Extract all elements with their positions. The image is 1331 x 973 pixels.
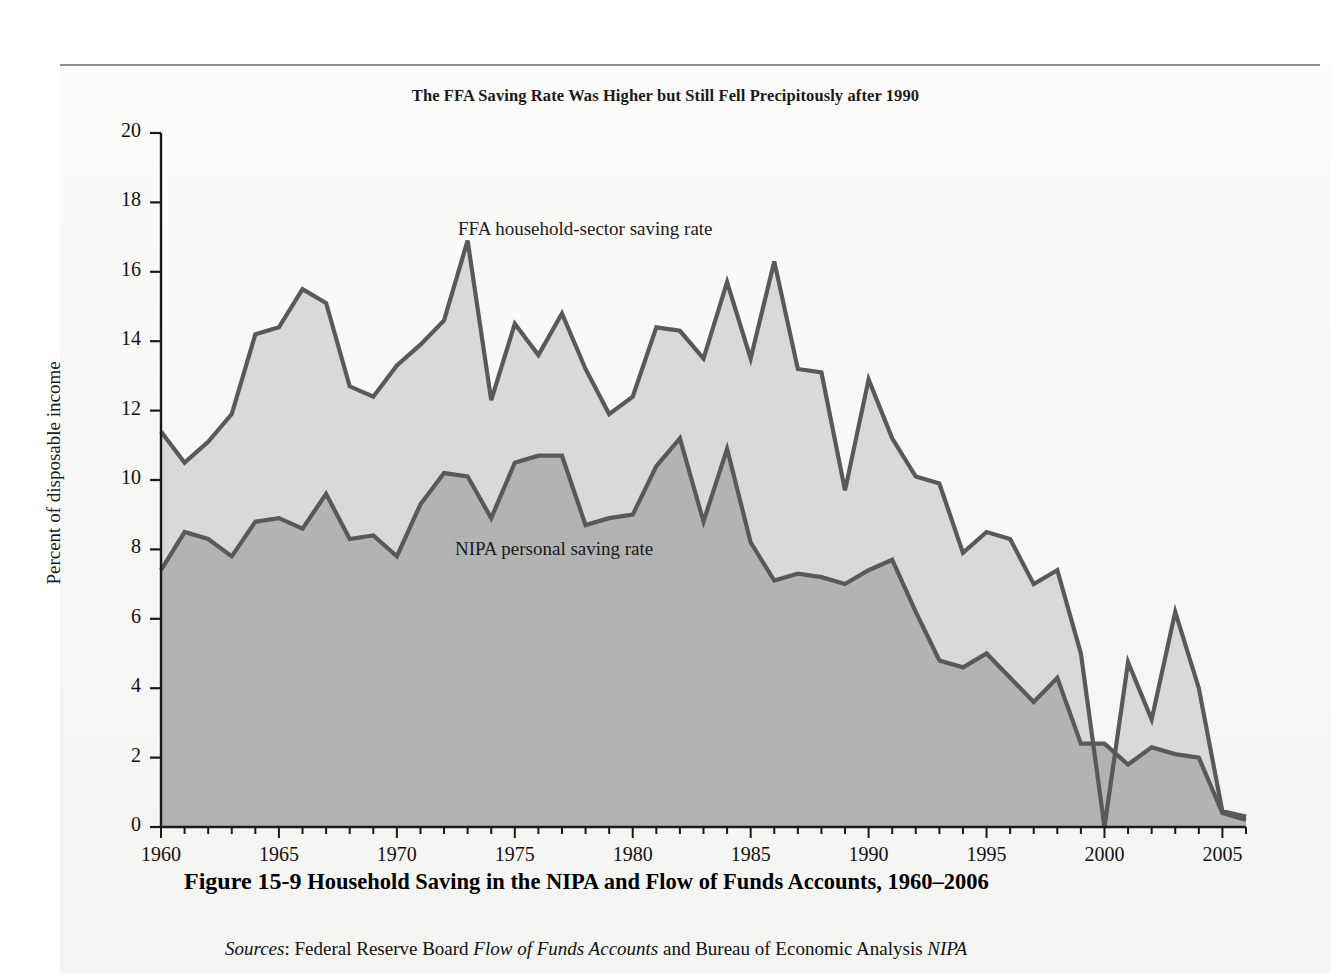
x-tick-label-2005: 2005: [1177, 843, 1267, 866]
chart-svg: [0, 0, 1331, 973]
y-tick-label-8: 8: [95, 535, 141, 558]
x-tick-label-2000: 2000: [1059, 843, 1149, 866]
chart-plot: [0, 0, 1331, 973]
sources-italic-nipa: NIPA: [927, 938, 967, 959]
x-tick-label-1995: 1995: [942, 843, 1032, 866]
y-tick-label-6: 6: [95, 605, 141, 628]
area-fills: [161, 241, 1246, 827]
sources-italic-flow-of-funds: Flow of Funds Accounts: [473, 938, 658, 959]
x-tick-label-1970: 1970: [352, 843, 442, 866]
sources-mid: and Bureau of Economic Analysis: [658, 938, 927, 959]
y-tick-label-0: 0: [95, 813, 141, 836]
x-tick-label-1975: 1975: [470, 843, 560, 866]
y-tick-label-4: 4: [95, 674, 141, 697]
y-tick-label-16: 16: [95, 258, 141, 281]
y-tick-label-10: 10: [95, 466, 141, 489]
series-label-nipa: NIPA personal saving rate: [455, 538, 653, 560]
x-tick-label-1980: 1980: [588, 843, 678, 866]
y-tick-label-20: 20: [95, 119, 141, 142]
y-tick-label-14: 14: [95, 327, 141, 350]
series-label-ffa: FFA household-sector saving rate: [458, 218, 713, 240]
sources-label: Sources: [225, 938, 284, 959]
figure-caption: Figure 15-9 Household Saving in the NIPA…: [184, 866, 1284, 898]
y-tick-label-12: 12: [95, 397, 141, 420]
x-tick-label-1990: 1990: [824, 843, 914, 866]
x-tick-label-1960: 1960: [116, 843, 206, 866]
x-tick-label-1985: 1985: [706, 843, 796, 866]
y-tick-label-2: 2: [95, 744, 141, 767]
sources-pre: : Federal Reserve Board: [284, 938, 473, 959]
figure-sources: Sources: Federal Reserve Board Flow of F…: [225, 938, 1315, 960]
y-tick-label-18: 18: [95, 188, 141, 211]
x-tick-label-1965: 1965: [234, 843, 324, 866]
figure-number: Figure 15-9: [184, 868, 302, 894]
figure-caption-text: Household Saving in the NIPA and Flow of…: [307, 869, 989, 894]
